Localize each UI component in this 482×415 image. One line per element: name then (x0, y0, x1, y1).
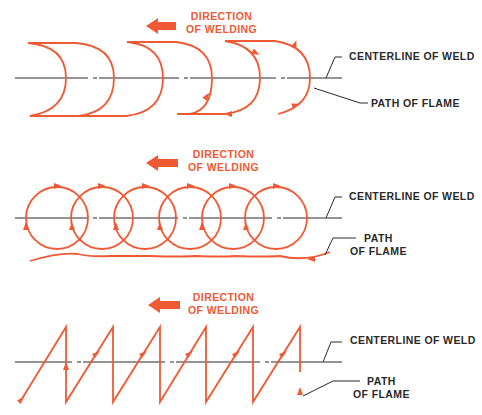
path-of-flame-label: PATH OF FLAME (350, 232, 407, 258)
path-of-flame-label: PATH OF FLAME (353, 375, 410, 401)
direction-label: DIRECTION OF WELDING (188, 148, 259, 174)
centerline-label: CENTERLINE OF WELD (350, 334, 476, 347)
direction-arrow-icon (146, 18, 176, 34)
direction-label: DIRECTION OF WELDING (186, 10, 257, 36)
centerline-label: CENTERLINE OF WELD (349, 190, 475, 203)
direction-arrow-icon (146, 155, 178, 171)
flame-path (20, 327, 300, 402)
zigzag-pattern-panel: DIRECTION OF WELDING CENTERLINE OF WELD … (0, 280, 482, 415)
centerline-label: CENTERLINE OF WELD (349, 50, 475, 63)
direction-label: DIRECTION OF WELDING (188, 291, 259, 317)
direction-arrow-icon (148, 297, 180, 313)
circular-pattern-panel: DIRECTION OF WELDING CENTERLINE OF WELD … (0, 140, 482, 280)
crescent-pattern-panel: DIRECTION OF WELDING CENTERLINE OF WELD … (0, 0, 482, 140)
path-of-flame-label: PATH OF FLAME (371, 97, 460, 110)
